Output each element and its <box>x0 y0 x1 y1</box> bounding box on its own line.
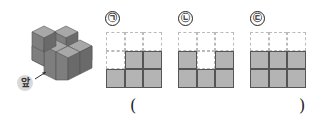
filled-cell <box>143 51 162 70</box>
filled-cell <box>250 51 269 70</box>
empty-cell <box>269 32 288 51</box>
answer-field[interactable] <box>145 96 295 116</box>
empty-cell <box>287 32 306 51</box>
filled-cell <box>178 69 197 88</box>
empty-cell <box>197 32 216 51</box>
filled-cell <box>197 69 216 88</box>
empty-cell <box>197 51 216 70</box>
empty-cell <box>106 51 125 70</box>
option-label-giyeok: ㉠ <box>105 11 120 26</box>
option-grid-nieun <box>178 32 234 88</box>
filled-cell <box>106 69 125 88</box>
option-grid-digeut <box>250 32 306 88</box>
front-direction-badge: 앞 <box>17 75 33 91</box>
filled-cell <box>250 69 269 88</box>
answer-open-paren: ( <box>130 96 136 115</box>
option-grid-giyeok <box>106 32 162 88</box>
filled-cell <box>143 69 162 88</box>
option-label-nieun: ㉡ <box>178 11 193 26</box>
filled-cell <box>269 51 288 70</box>
filled-cell <box>125 69 144 88</box>
empty-cell <box>125 32 144 51</box>
empty-cell <box>106 32 125 51</box>
filled-cell <box>269 69 288 88</box>
answer-close-paren: ) <box>299 96 305 115</box>
filled-cell <box>287 51 306 70</box>
empty-cell <box>215 32 234 51</box>
filled-cell <box>215 69 234 88</box>
empty-cell <box>178 32 197 51</box>
empty-cell <box>250 32 269 51</box>
filled-cell <box>287 69 306 88</box>
filled-cell <box>178 51 197 70</box>
filled-cell <box>215 51 234 70</box>
arrow-icon <box>34 70 48 80</box>
filled-cell <box>125 51 144 70</box>
empty-cell <box>143 32 162 51</box>
option-label-digeut: ㉢ <box>250 11 265 26</box>
